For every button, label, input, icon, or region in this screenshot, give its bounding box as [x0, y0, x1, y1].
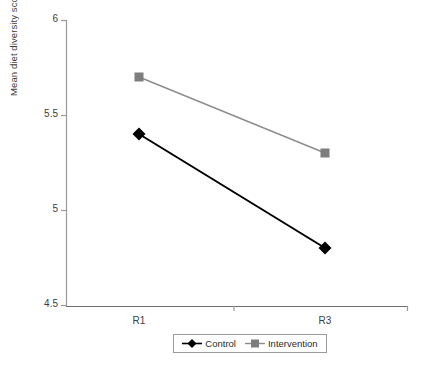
diamond-marker-icon [182, 338, 202, 349]
data-point-control-r3 [319, 242, 332, 255]
legend-label-intervention: Intervention [268, 338, 318, 349]
series-line-control [139, 134, 325, 248]
y-axis-title: Mean diet diversity score [8, 0, 22, 96]
square-marker-icon [245, 338, 265, 349]
y-tick-label-6: 6 [28, 13, 58, 24]
x-tick-label-r1: R1 [119, 315, 159, 326]
data-point-intervention-r1 [135, 73, 144, 82]
legend-item-control: Control [182, 338, 236, 349]
y-tick-label-4-5: 4.5 [28, 298, 58, 309]
series-line-intervention [139, 77, 325, 153]
data-point-intervention-r3 [321, 149, 330, 158]
data-point-control-r1 [133, 128, 146, 141]
line-chart-plot [0, 0, 427, 373]
legend-label-control: Control [205, 338, 236, 349]
x-tick-label-r3: R3 [305, 315, 345, 326]
y-tick-label-5: 5 [28, 203, 58, 214]
legend-item-intervention: Intervention [245, 338, 318, 349]
chart-legend: Control Intervention [173, 334, 327, 353]
chart-figure: Mean diet diversity score 6 5.5 5 4.5 R1… [0, 0, 427, 373]
y-tick-label-5-5: 5.5 [28, 108, 58, 119]
